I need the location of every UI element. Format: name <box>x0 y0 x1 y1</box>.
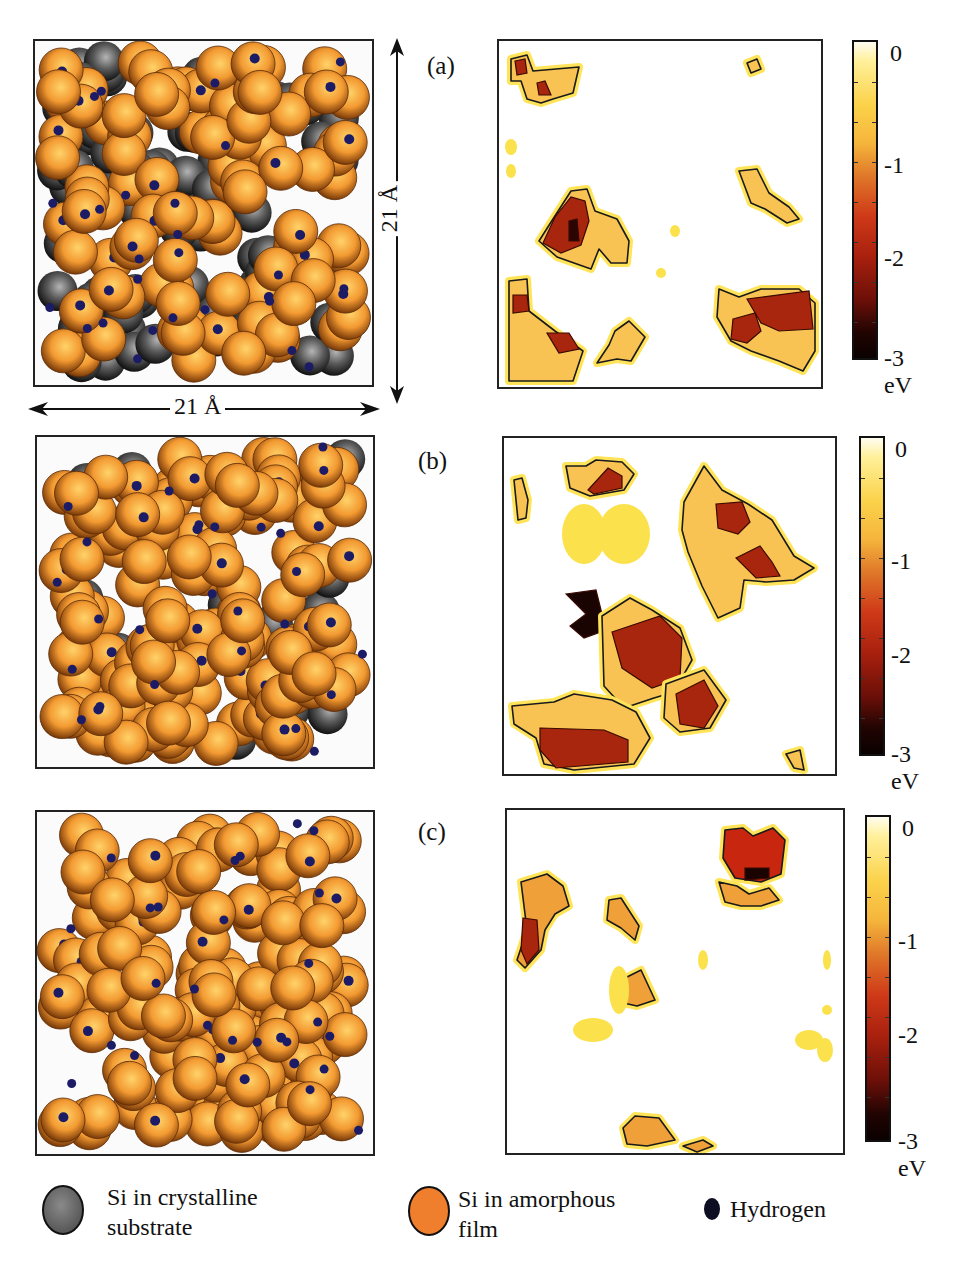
colorbar-b <box>859 436 885 756</box>
colorbar-c-tick-2: -2 <box>898 1022 918 1049</box>
horizontal-dimension-label: 21 Å <box>170 393 225 420</box>
colorbar-a-tick-2: -2 <box>884 245 904 272</box>
energy-heatmap-a <box>499 41 821 387</box>
colorbar-c-tick-1: -1 <box>898 928 918 955</box>
energy-map-b <box>502 436 837 776</box>
colorbar-c <box>865 815 891 1142</box>
crystalline-si-swatch-icon <box>40 1184 86 1236</box>
legend-amorphous-si: Si in amorphous film <box>458 1184 615 1244</box>
atom-structure-panel-b <box>35 435 375 769</box>
legend-crystalline-si: Si in crystalline substrate <box>107 1182 258 1242</box>
colorbar-c-tick-0: 0 <box>902 815 914 842</box>
panel-label-a: (a) <box>427 52 455 80</box>
colorbar-c-unit: eV <box>898 1155 926 1182</box>
energy-map-c <box>505 808 845 1155</box>
colorbar-c-tick-3: -3 <box>898 1128 918 1155</box>
colorbar-b-unit: eV <box>891 768 919 795</box>
colorbar-a-unit: eV <box>884 372 912 399</box>
energy-heatmap-b <box>504 438 835 774</box>
colorbar-a <box>852 40 878 360</box>
colorbar-b-tick-2: -2 <box>891 642 911 669</box>
legend: Si in crystalline substrate Si in amorph… <box>0 1180 955 1260</box>
colorbar-b-tick-0: 0 <box>895 436 907 463</box>
colorbar-b-tick-3: -3 <box>891 741 911 768</box>
colorbar-a-tick-1: -1 <box>884 152 904 179</box>
atoms-render-a <box>35 41 372 385</box>
vertical-dimension-label: 21 Å <box>376 181 403 236</box>
atoms-render-c <box>37 812 373 1154</box>
atom-structure-panel-c <box>35 810 375 1156</box>
colorbar-a-tick-0: 0 <box>890 40 902 67</box>
amorphous-si-swatch-icon <box>406 1184 452 1236</box>
atoms-render-b <box>37 437 373 767</box>
panel-label-c: (c) <box>418 818 446 846</box>
legend-hydrogen: Hydrogen <box>730 1194 826 1224</box>
colorbar-a-tick-3: -3 <box>884 345 904 372</box>
atom-structure-panel-a <box>33 39 374 387</box>
energy-heatmap-c <box>507 810 843 1153</box>
hydrogen-swatch-icon <box>702 1196 722 1222</box>
energy-map-a <box>497 39 823 389</box>
colorbar-b-tick-1: -1 <box>891 548 911 575</box>
panel-label-b: (b) <box>418 447 447 475</box>
